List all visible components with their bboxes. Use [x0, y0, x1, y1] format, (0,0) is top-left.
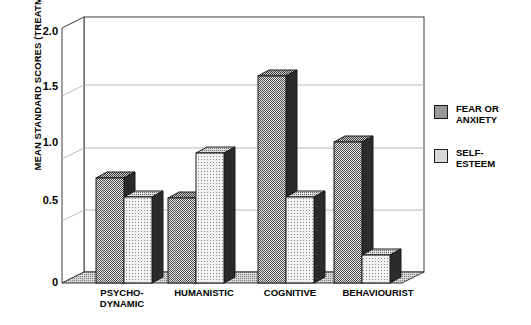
bar-humanistic-selfesteem [196, 147, 235, 283]
bar-cognitive-selfesteem [286, 191, 325, 283]
legend-item-self-esteem: SELF- ESTEEM [434, 148, 529, 176]
bar-behaviourist-selfesteem [362, 249, 401, 283]
legend-swatch-self-esteem [434, 149, 448, 163]
legend-label-fear-or-anxiety: FEAR OR ANXIETY [456, 104, 499, 125]
legend-label-self-esteem: SELF- ESTEEM [456, 148, 495, 169]
legend-item-fear-or-anxiety: FEAR OR ANXIETY [434, 104, 529, 132]
x-category-psychodynamic: PSYCHO- DYNAMIC [78, 288, 166, 309]
bar-chart: MEAN STANDARD SCORES (TREATMENT > CONTRO… [0, 0, 531, 325]
x-category-humanistic: HUMANISTIC [157, 288, 251, 299]
legend: FEAR OR ANXIETY SELF- ESTEEM [434, 104, 529, 192]
bar-psychodynamic-selfesteem [124, 191, 163, 283]
legend-swatch-fear-or-anxiety [434, 105, 448, 119]
x-category-behaviourist: BEHAVIOURIST [328, 288, 428, 299]
x-category-cognitive: COGNITIVE [248, 288, 332, 299]
